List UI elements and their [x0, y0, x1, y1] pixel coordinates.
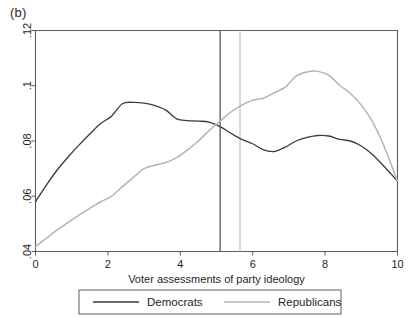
series-line-republicans [36, 71, 398, 246]
y-axis: .04.06.08.1.12 [21, 23, 36, 259]
legend-label-democrats: Democrats [147, 296, 203, 308]
x-tick-label: 10 [391, 258, 403, 270]
chart-legend: DemocratsRepublicans [79, 290, 342, 314]
y-tick-label: .06 [21, 189, 33, 204]
density-plot-chart: .04.06.08.1.12 0246810 Voter assessments… [0, 0, 418, 318]
y-tick-label: .08 [21, 133, 33, 148]
y-tick-label: .12 [21, 23, 33, 38]
axis-frame [36, 31, 398, 252]
x-tick-label: 6 [250, 258, 256, 270]
y-tick-label: .04 [21, 244, 33, 259]
x-tick-label: 4 [177, 258, 183, 270]
y-tick-label: .1 [21, 81, 33, 90]
x-tick-label: 8 [322, 258, 328, 270]
plot-frame [36, 31, 398, 252]
vertical-reference-lines [220, 31, 240, 252]
figure-panel-b: (b) .04.06.08.1.12 0246810 Voter assessm… [0, 0, 418, 318]
x-axis: 0246810 [32, 252, 403, 270]
legend-label-republicans: Republicans [278, 296, 342, 308]
x-tick-label: 0 [32, 258, 38, 270]
x-tick-label: 2 [105, 258, 111, 270]
series-line-democrats [36, 102, 398, 202]
data-series-group [36, 71, 398, 246]
x-axis-title: Voter assessments of party ideology [128, 273, 305, 285]
